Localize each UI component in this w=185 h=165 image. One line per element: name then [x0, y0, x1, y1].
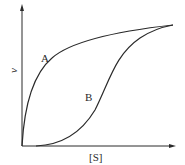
curve-b — [36, 25, 173, 146]
curve-a — [22, 25, 173, 146]
curve-b-label: B — [85, 91, 92, 103]
kinetics-chart: v [S] A B — [0, 0, 185, 165]
x-axis-arrow-icon — [169, 144, 176, 148]
y-axis-label: v — [7, 68, 19, 73]
curve-a-label: A — [41, 52, 49, 64]
y-axis-arrow-icon — [20, 4, 24, 11]
x-axis-label: [S] — [89, 151, 102, 163]
